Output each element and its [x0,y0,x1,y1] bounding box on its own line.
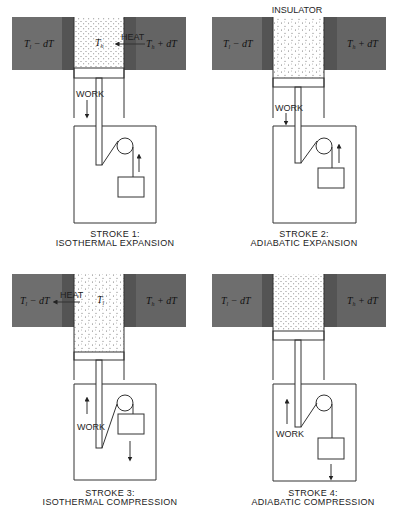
insulator-right [324,17,337,70]
pulley [316,395,332,411]
piston-rod [295,87,301,163]
piston-plate [74,352,124,360]
panel-stroke-3: Tl − dT Th + dT Tl HEAT WORK STROKE 3: I… [12,274,186,507]
panel-stroke-4: Tl − dT Th + dT WORK STROKE 4: ADIABATIC… [212,274,386,507]
piston-rod [96,360,102,448]
cold-reservoir-label: Tl − dT [223,38,254,50]
weight-enclosure [74,126,156,223]
weight [118,414,144,434]
hot-reservoir-label: Th + dT [347,38,379,50]
cold-reservoir-label: Tl − dT [221,295,252,307]
piston-plate [273,78,324,87]
hot-reservoir-label: Th + dT [146,38,178,50]
work-label: WORK [76,89,104,99]
work-label: WORK [275,103,303,113]
work-label: WORK [77,422,105,432]
panel-stroke-2: Tl − dT Th + dT WORK STROKE 2: ADIABATIC… [212,17,386,248]
weight [318,168,344,188]
rope [102,141,118,165]
contact-strip-right [124,274,136,327]
gas-particles [74,274,124,352]
rope [301,141,317,163]
piston-plate [74,68,124,78]
weight [118,177,144,197]
work-label: WORK [276,429,304,439]
carnot-cycle-diagram: INSULATOR Tl − dT Th + dT Th HEAT WORK S… [0,0,399,514]
heat-label: HEAT [121,32,145,42]
cold-reservoir-label: Tl − dT [20,295,51,307]
weight [318,438,344,459]
piston-rod [295,340,301,427]
pulley [316,138,332,154]
insulator-label: INSULATOR [272,5,323,15]
caption-line2: ISOTHERMAL COMPRESSION [43,497,178,507]
heat-label: HEAT [60,290,84,300]
gas-particles [273,274,324,331]
contact-strip-left [62,17,74,70]
contact-strip-left [62,274,74,327]
gas-particles [273,17,324,78]
hot-reservoir-label: Th + dT [146,295,178,307]
rope [301,403,317,427]
panel-stroke-1: Tl − dT Th + dT Th HEAT WORK STROKE 1: I… [12,17,186,248]
caption-line2: ISOTHERMAL EXPANSION [56,238,175,248]
pulley [117,395,133,411]
pulley [117,138,133,154]
insulator-left [262,17,273,70]
insulator-left [262,274,273,327]
piston-plate [273,331,324,340]
cold-reservoir-label: Tl − dT [24,38,55,50]
caption-line2: ADIABATIC COMPRESSION [251,497,374,507]
caption-line2: ADIABATIC EXPANSION [251,238,358,248]
insulator-right [324,274,337,327]
hot-reservoir-label: Th + dT [347,295,379,307]
